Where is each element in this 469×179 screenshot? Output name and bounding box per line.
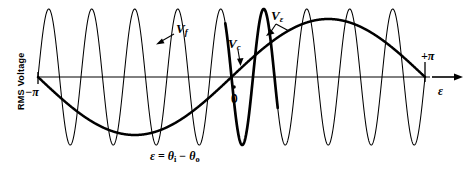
label-v-epsilon-base: V (271, 8, 280, 23)
caption-minus: − (179, 149, 186, 163)
label-v-epsilon-subscript: ε (280, 14, 284, 24)
origin-label: 0 (231, 93, 238, 105)
origin-dot (232, 85, 236, 89)
waveform-plot (0, 0, 469, 179)
label-vc-subscript: c (237, 42, 241, 52)
caption-sub-i: i (174, 155, 176, 164)
caption-epsilon: ε (150, 149, 155, 163)
label-vf-base: V (176, 21, 185, 36)
signal-waveform-figure: RMS Voltage Vf Vc Vε 0 −π +π ε ε = θi − … (0, 0, 469, 179)
y-axis-label: RMS Voltage (17, 52, 26, 110)
caption-sub-o: o (195, 155, 199, 164)
figure-caption: ε = θi − θo (150, 150, 200, 165)
label-vf: Vf (176, 22, 188, 37)
label-vf-subscript: f (185, 27, 188, 37)
x-axis-variable-label: ε (438, 85, 443, 97)
label-vc: Vc (228, 37, 241, 52)
x-axis-arrow (432, 74, 463, 81)
label-vc-base: V (228, 36, 237, 51)
label-v-epsilon: Vε (271, 9, 283, 24)
caption-equals: = (158, 149, 165, 163)
x-axis-min-label: −π (25, 86, 39, 98)
x-axis-max-label: +π (421, 50, 434, 62)
